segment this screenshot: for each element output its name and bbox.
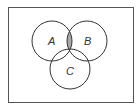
label-a: A <box>47 35 55 47</box>
label-b: B <box>84 35 91 47</box>
label-c: C <box>66 65 74 77</box>
venn-diagram: A B C <box>0 0 139 106</box>
universal-set-border <box>9 8 134 103</box>
